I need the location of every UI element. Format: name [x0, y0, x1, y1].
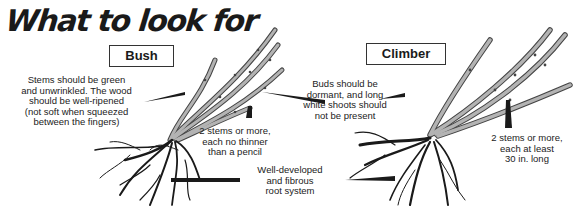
stems-condition-note: Stems should be green and unwrinkled. Th…	[14, 75, 139, 128]
buds-note: Buds should be dormant, and long white s…	[290, 79, 400, 121]
bush-stems-note: 2 stems or more, each no thinner than a …	[180, 126, 290, 158]
climber-stems-note: 2 stems or more, each at least 30 in. lo…	[475, 133, 579, 165]
roots-note: Well-developed and fibrous root system	[235, 165, 345, 197]
